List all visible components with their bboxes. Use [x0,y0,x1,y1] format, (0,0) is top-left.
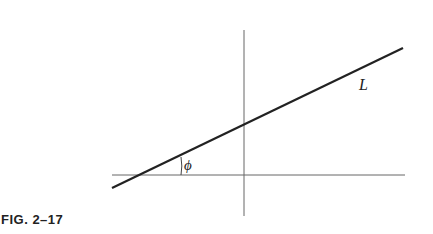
line-label: L [358,76,368,93]
diagram: ϕ L [0,0,433,234]
figure-caption: FIG. 2–17 [1,212,63,227]
line-L [112,48,403,188]
angle-label: ϕ [184,157,192,173]
angle-arc [181,157,182,175]
